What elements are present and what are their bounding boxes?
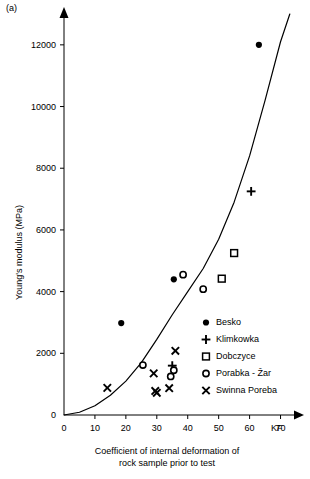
legend-marker-glyph xyxy=(198,348,216,365)
data-point xyxy=(168,373,174,379)
y-axis-tick-label: 10000 xyxy=(8,102,56,112)
data-point xyxy=(256,42,262,48)
data-point xyxy=(140,362,146,368)
legend-marker-glyph xyxy=(198,382,216,399)
legend-item[interactable]: Klimkowka xyxy=(198,331,277,348)
legend-marker-shape xyxy=(202,387,209,394)
legend-marker-shape xyxy=(203,353,210,360)
data-point xyxy=(104,384,111,391)
legend-label: Swinna Poreba xyxy=(216,385,277,396)
series-swinna-poreba xyxy=(104,347,179,396)
x-axis-tick-label: 20 xyxy=(112,423,140,433)
data-point xyxy=(172,347,179,354)
open-square-marker xyxy=(218,275,225,282)
legend-marker-open-square xyxy=(198,348,216,365)
legend-item[interactable]: Dobczyce xyxy=(198,348,277,365)
open-circle-marker xyxy=(140,362,146,368)
legend-label: Besko xyxy=(216,317,241,328)
legend-marker-glyph xyxy=(198,331,216,348)
y-axis-tick-label: 8000 xyxy=(8,163,56,173)
filled-circle-marker xyxy=(256,42,262,48)
legend-marker-glyph xyxy=(198,365,216,382)
legend-marker-shape xyxy=(202,335,211,344)
x-axis-title: Coefficient of internal deformation of r… xyxy=(52,445,282,469)
x-axis-unit-label: KF xyxy=(271,423,283,433)
legend-item[interactable]: Porabka - Žar xyxy=(198,365,277,382)
legend-item[interactable]: Besko xyxy=(198,314,277,331)
open-circle-marker xyxy=(180,272,186,278)
open-square-marker xyxy=(231,250,238,257)
data-point xyxy=(180,272,186,278)
legend-marker-filled-circle xyxy=(198,314,216,331)
legend: BeskoKlimkowkaDobczycePorabka - ŽarSwinn… xyxy=(198,314,277,399)
data-point xyxy=(118,320,124,326)
open-square-marker xyxy=(203,353,210,360)
open-circle-marker xyxy=(200,286,206,292)
filled-circle-marker xyxy=(118,320,124,326)
x-axis-tick-label: 50 xyxy=(205,423,233,433)
data-point xyxy=(171,276,177,282)
x-axis-tick-label: 30 xyxy=(143,423,171,433)
x-axis-tick-label: 10 xyxy=(81,423,109,433)
y-axis-arrowhead xyxy=(60,7,69,18)
x-axis-tick-label: 40 xyxy=(174,423,202,433)
legend-label: Dobczyce xyxy=(216,351,256,362)
x-axis-tick-label: 0 xyxy=(50,423,78,433)
data-point xyxy=(231,250,238,257)
legend-label: Porabka - Žar xyxy=(216,368,271,379)
data-point xyxy=(247,187,256,196)
x-axis-arrowhead xyxy=(294,411,304,420)
data-point xyxy=(165,384,172,391)
data-point xyxy=(171,367,177,373)
x-axis-tick-label: 60 xyxy=(236,423,264,433)
series-dobczyce xyxy=(218,250,237,282)
legend-marker-shape xyxy=(203,370,209,376)
legend-marker-cross xyxy=(198,382,216,399)
legend-marker-glyph xyxy=(198,314,216,331)
filled-circle-marker xyxy=(203,319,209,325)
y-axis-tick-label: 2000 xyxy=(8,348,56,358)
x-axis-title-line2: rock sample prior to test xyxy=(52,457,282,469)
y-axis-title: Young's modulus (MPa) xyxy=(14,205,24,300)
open-circle-marker xyxy=(171,367,177,373)
legend-marker-shape xyxy=(203,319,209,325)
data-point xyxy=(200,286,206,292)
legend-marker-plus xyxy=(198,331,216,348)
data-point xyxy=(150,370,157,377)
legend-item[interactable]: Swinna Poreba xyxy=(198,382,277,399)
filled-circle-marker xyxy=(171,276,177,282)
legend-marker-open-circle xyxy=(198,365,216,382)
x-axis-title-line1: Coefficient of internal deformation of xyxy=(52,445,282,457)
data-point xyxy=(218,275,225,282)
y-axis-tick-label: 12000 xyxy=(8,40,56,50)
open-circle-marker xyxy=(203,370,209,376)
open-circle-marker xyxy=(168,373,174,379)
figure-panel: (a) 020004000600080001000012000 01020304… xyxy=(0,0,310,479)
legend-label: Klimkowka xyxy=(216,334,259,345)
scatter-plot-canvas xyxy=(0,0,310,479)
y-axis-tick-label: 0 xyxy=(8,410,56,420)
